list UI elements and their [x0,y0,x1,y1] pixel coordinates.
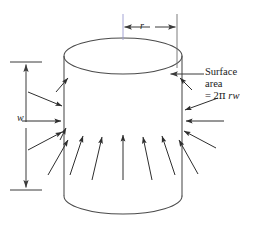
field-arrow [28,92,62,106]
field-arrows-left [22,78,68,175]
field-arrow [60,128,66,140]
surface-area-formula: = 2π rw [205,90,239,102]
formula-variables: rw [226,90,240,101]
pi-symbol: π [219,89,226,101]
radius-dimension [123,14,177,68]
field-arrows-bottom [60,128,175,180]
radius-label: r [140,20,144,31]
field-arrow [143,137,152,180]
field-arrow [48,140,68,175]
field-arrow [70,136,83,175]
field-arrow [184,131,216,148]
formula-prefix: = 2 [205,90,219,101]
surface-area-label-line2: area [205,78,222,90]
width-label: w [17,112,24,123]
cylinder-diagram-canvas: Surface area = 2π rw r w [0,0,267,246]
field-arrow [162,136,175,175]
field-arrow [28,132,62,150]
surface-area-label-line1: Surface [205,66,237,78]
width-dimension [10,62,42,190]
diagram-svg [0,0,267,246]
field-arrow [92,137,102,180]
field-arrow [56,78,68,92]
